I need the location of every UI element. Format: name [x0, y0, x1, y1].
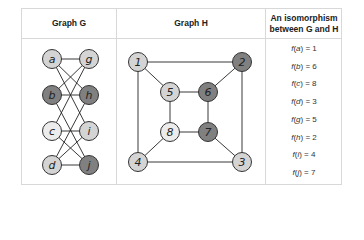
svg-text:h: h	[86, 89, 93, 102]
graph-g-node-a: a	[43, 50, 62, 69]
svg-text:i: i	[87, 125, 90, 138]
graph-g-node-j: j	[80, 156, 99, 175]
graph-g-node-h: h	[80, 86, 99, 105]
graph-g-node-g: g	[80, 50, 99, 69]
graph-h-node-4: 4	[129, 153, 148, 172]
graph-h-node-8: 8	[161, 123, 180, 142]
graph-h-node-5: 5	[161, 83, 180, 102]
isomorphism-mapping: f(a) = 1	[266, 44, 342, 53]
graph-h-node-2: 2	[233, 53, 252, 72]
svg-text:5: 5	[167, 86, 174, 99]
isomorphism-mapping: f(c) = 8	[266, 79, 342, 88]
isomorphism-mapping: f(g) = 5	[266, 115, 342, 124]
svg-text:a: a	[49, 53, 56, 66]
svg-text:2: 2	[239, 56, 246, 69]
svg-text:b: b	[49, 89, 56, 102]
isomorphism-mapping: f(j) = 7	[266, 168, 342, 177]
svg-text:3: 3	[239, 156, 246, 169]
svg-text:c: c	[49, 125, 55, 138]
graph-h-node-1: 1	[129, 53, 148, 72]
svg-text:4: 4	[135, 156, 142, 169]
svg-text:7: 7	[205, 126, 212, 139]
graph-h-node-7: 7	[199, 123, 218, 142]
graph-g-node-c: c	[43, 122, 62, 141]
isomorphism-mapping: f(h) = 2	[266, 133, 342, 142]
graph-g-node-d: d	[43, 156, 62, 175]
svg-text:8: 8	[167, 126, 174, 139]
graph-h-node-3: 3	[233, 153, 252, 172]
isomorphism-mapping: f(b) = 6	[266, 62, 342, 71]
svg-text:d: d	[49, 159, 57, 172]
isomorphism-mapping: f(d) = 3	[266, 97, 342, 106]
graph-g-node-i: i	[80, 122, 99, 141]
graph-h-node-6: 6	[199, 83, 218, 102]
isomorphism-mapping: f(i) = 4	[266, 150, 342, 159]
svg-text:6: 6	[205, 86, 212, 99]
graph-g-node-b: b	[43, 86, 62, 105]
svg-text:1: 1	[135, 56, 142, 69]
svg-text:g: g	[86, 53, 93, 66]
